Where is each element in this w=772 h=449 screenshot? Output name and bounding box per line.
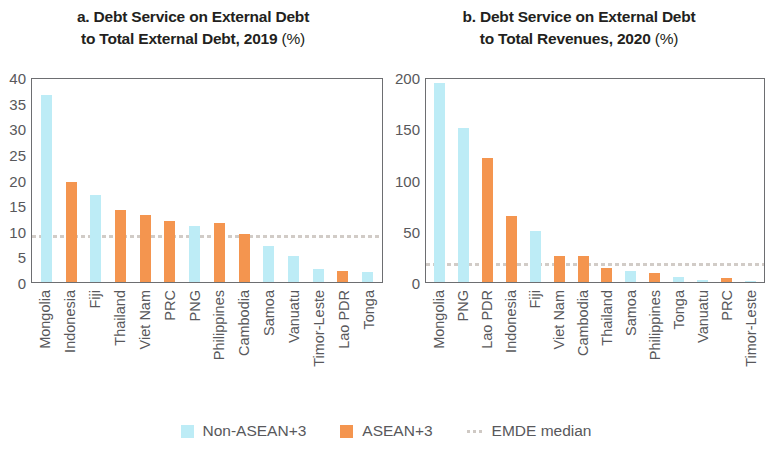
bar-slot xyxy=(547,79,571,282)
category-label-text: PNG xyxy=(456,290,471,321)
panel-b-title-unit: (%) xyxy=(655,30,679,47)
panel-a-ytick-5: 5 xyxy=(18,250,26,265)
category-label-text: Lao PDR xyxy=(336,290,351,349)
bar-prc xyxy=(721,278,732,282)
category-label: Lao PDR xyxy=(475,290,499,408)
panel-a-ytick-0: 0 xyxy=(18,276,26,291)
bar-slot xyxy=(306,79,331,282)
bar-png xyxy=(189,226,200,282)
panel-a-category-labels-inner: MongoliaIndonesiaFijiThailandViet NamPRC… xyxy=(31,290,383,408)
panel-b-ytick-50: 50 xyxy=(403,224,420,239)
category-label-text: Samoa xyxy=(262,290,277,336)
bar-lao-pdr xyxy=(337,271,348,282)
bar-slot xyxy=(108,79,133,282)
figure-debt-service-charts: a. Debt Service on External Debt to Tota… xyxy=(0,0,772,449)
category-label: Viet Nam xyxy=(132,290,157,408)
bar-slot xyxy=(643,79,667,282)
panel-b-y-axis: 200150100500 xyxy=(386,78,424,285)
bar-viet-nam xyxy=(554,256,565,282)
panel-a-ytick-30: 30 xyxy=(9,122,26,137)
category-label: PRC xyxy=(157,290,182,408)
bar-slot xyxy=(331,79,356,282)
category-label: Cambodia xyxy=(571,290,595,408)
bar-slot xyxy=(281,79,306,282)
legend-swatch-non-asean-icon xyxy=(181,425,194,438)
bar-vanuatu xyxy=(288,256,299,282)
category-label-text: Cambodia xyxy=(576,290,591,356)
panel-a-ytick-25: 25 xyxy=(9,147,26,162)
bar-indonesia xyxy=(66,182,77,282)
bar-slot xyxy=(428,79,452,282)
category-label-text: PNG xyxy=(187,290,202,321)
category-label-text: Lao PDR xyxy=(480,290,495,349)
category-label: Lao PDR xyxy=(331,290,356,408)
bar-slot xyxy=(714,79,738,282)
bar-slot xyxy=(667,79,691,282)
category-label-text: Indonesia xyxy=(63,290,78,353)
legend-item[interactable]: EMDE median xyxy=(467,423,592,439)
panel-b-title: b. Debt Service on External Debt to Tota… xyxy=(386,6,772,50)
category-label-text: Timor-Leste xyxy=(312,290,327,367)
panel-b-category-labels-inner: MongoliaPNGLao PDRIndonesiaFijiViet NamC… xyxy=(425,290,765,408)
category-label-text: Mongolia xyxy=(38,290,53,349)
bar-slot xyxy=(690,79,714,282)
bar-slot xyxy=(256,79,281,282)
panel-a-title-line2: to Total External Debt, 2019 xyxy=(81,30,282,47)
legend-item[interactable]: Non-ASEAN+3 xyxy=(181,423,307,439)
category-label: Mongolia xyxy=(33,290,58,408)
chart-panel-a: a. Debt Service on External Debt to Tota… xyxy=(0,0,386,412)
bar-fiji xyxy=(530,231,541,282)
category-label: PNG xyxy=(182,290,207,408)
category-label-text: Thailand xyxy=(113,290,128,346)
bar-tonga xyxy=(362,272,373,282)
category-label-text: PRC xyxy=(162,290,177,321)
bar-slot xyxy=(182,79,207,282)
bar-slot xyxy=(452,79,476,282)
bar-cambodia xyxy=(578,256,589,282)
bar-slot xyxy=(158,79,183,282)
bar-timor-leste xyxy=(313,269,324,282)
category-label: Samoa xyxy=(619,290,643,408)
legend-item[interactable]: ASEAN+3 xyxy=(340,423,432,439)
panel-a-bars xyxy=(32,79,382,282)
category-label: Tonga xyxy=(356,290,381,408)
category-label: Thailand xyxy=(595,290,619,408)
category-label-text: Philippines xyxy=(648,290,663,360)
category-label: Philippines xyxy=(643,290,667,408)
category-label: PNG xyxy=(451,290,475,408)
bar-samoa xyxy=(625,271,636,282)
panel-a-plot-area xyxy=(31,78,383,283)
bar-tonga xyxy=(673,277,684,282)
category-label: Indonesia xyxy=(58,290,83,408)
category-label: Thailand xyxy=(108,290,133,408)
panel-a-title: a. Debt Service on External Debt to Tota… xyxy=(0,6,386,50)
category-label-text: Fiji xyxy=(528,290,543,309)
bar-png xyxy=(458,128,469,282)
panel-b-title-line1: b. Debt Service on External Debt xyxy=(462,8,695,25)
category-label-text: Tonga xyxy=(672,290,687,330)
bar-mongolia xyxy=(434,83,445,282)
panel-a-title-unit: (%) xyxy=(282,30,306,47)
category-label-text: Vanuatu xyxy=(696,290,711,343)
panel-a-plot-wrap: 4035302520151050 xyxy=(0,78,386,290)
bar-prc xyxy=(164,221,175,283)
legend-line-emde-median-icon xyxy=(467,430,483,433)
bar-slot xyxy=(355,79,380,282)
panel-b-ytick-0: 0 xyxy=(412,276,420,291)
panel-b-category-labels: MongoliaPNGLao PDRIndonesiaFijiViet NamC… xyxy=(386,290,772,408)
bar-slot xyxy=(571,79,595,282)
panel-b-ytick-100: 100 xyxy=(395,173,420,188)
panel-b-plot-wrap: 200150100500 xyxy=(386,78,772,290)
category-label-text: Fiji xyxy=(88,290,103,309)
bar-slot xyxy=(476,79,500,282)
legend-label: Non-ASEAN+3 xyxy=(203,423,307,439)
bar-slot xyxy=(500,79,524,282)
bar-slot xyxy=(738,79,762,282)
category-label: Timor-Leste xyxy=(306,290,331,408)
bar-slot xyxy=(133,79,158,282)
panel-b-ytick-150: 150 xyxy=(395,122,420,137)
category-label-text: Viet Nam xyxy=(552,290,567,349)
panel-a-ytick-15: 15 xyxy=(9,199,26,214)
bar-slot xyxy=(523,79,547,282)
category-label: Cambodia xyxy=(232,290,257,408)
